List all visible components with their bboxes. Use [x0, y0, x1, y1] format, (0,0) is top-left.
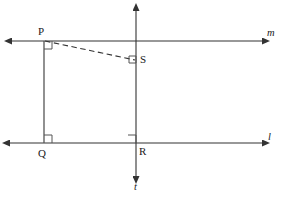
- right-angle-marker-q: [44, 135, 52, 143]
- point-label-s: S: [140, 54, 146, 65]
- line-label-m: m: [267, 28, 275, 39]
- right-angle-marker-r: [128, 135, 136, 143]
- segment-ps: [45, 41, 135, 60]
- point-label-r: R: [139, 146, 146, 157]
- line-label-t: t: [134, 182, 137, 193]
- geometry-diagram: P Q R S m l t: [0, 0, 284, 200]
- right-angle-marker-p: [44, 41, 52, 49]
- line-label-l: l: [268, 132, 271, 143]
- point-label-p: P: [38, 26, 44, 37]
- point-label-q: Q: [38, 148, 46, 159]
